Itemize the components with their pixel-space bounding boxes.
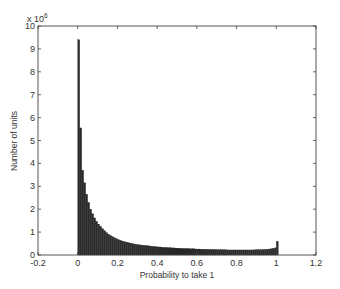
- histogram-bar: [262, 250, 264, 256]
- histogram-bar: [167, 248, 169, 255]
- histogram-bar: [129, 243, 131, 255]
- histogram-bar: [239, 250, 241, 255]
- y-tick-label: 8: [30, 67, 35, 77]
- x-axis-label: Probability to take 1: [140, 270, 215, 280]
- histogram-bar: [258, 250, 260, 255]
- histogram-bar: [147, 246, 149, 255]
- histogram-bar: [123, 242, 125, 255]
- histogram-bar: [78, 40, 80, 255]
- histogram-bar: [153, 247, 155, 255]
- histogram-bar: [207, 249, 209, 255]
- histogram-bar: [266, 249, 268, 255]
- histogram-bar: [256, 250, 258, 255]
- histogram-bar: [241, 250, 243, 255]
- histogram-bar: [100, 226, 102, 255]
- histogram-bar: [109, 236, 111, 255]
- y-tick-label: 4: [30, 158, 35, 168]
- histogram-bar: [137, 245, 139, 255]
- histogram-bar: [163, 247, 165, 255]
- x-tick-label: 0.2: [111, 258, 124, 268]
- histogram-bar: [209, 250, 211, 256]
- x-tick-label: 1: [274, 258, 279, 268]
- histogram-bar: [82, 170, 84, 255]
- histogram-bar: [143, 245, 145, 255]
- histogram-bar: [179, 248, 181, 255]
- histogram-bar: [205, 249, 207, 255]
- histogram-bar: [108, 234, 110, 255]
- histogram-bar: [169, 248, 171, 255]
- histogram-bar: [215, 250, 217, 256]
- histogram-bar: [203, 249, 205, 255]
- histogram-bar: [98, 224, 100, 255]
- histogram-bar: [113, 238, 115, 255]
- histogram-bar: [185, 249, 187, 255]
- histogram-bar: [173, 248, 175, 255]
- histogram-bar: [121, 241, 123, 255]
- histogram-bar: [177, 248, 179, 255]
- histogram-bar: [104, 231, 106, 255]
- histogram-bar: [250, 250, 252, 255]
- histogram-bar: [254, 250, 256, 255]
- histogram-bar: [211, 250, 213, 256]
- histogram-bar: [221, 250, 223, 255]
- histogram-bar: [127, 243, 129, 255]
- histogram-bar: [135, 244, 137, 255]
- histogram-bar: [189, 249, 191, 255]
- histogram-bar: [268, 249, 270, 255]
- histogram-bar: [92, 214, 94, 255]
- histogram-bar: [201, 249, 203, 255]
- histogram-bar: [96, 221, 98, 255]
- y-tick-label: 7: [30, 90, 35, 100]
- histogram-bar: [217, 250, 219, 255]
- histogram-bar: [94, 218, 96, 255]
- histogram-bar: [233, 250, 235, 255]
- histogram-bar: [187, 249, 189, 255]
- y-tick-label: 5: [30, 136, 35, 146]
- x-tick-label: 0.6: [191, 258, 204, 268]
- histogram-bar: [199, 249, 201, 255]
- histogram-bar: [252, 250, 254, 255]
- histogram-bar: [171, 248, 173, 255]
- histogram-bar: [165, 247, 167, 255]
- y-axis-label: Number of units: [9, 111, 19, 171]
- histogram-bar: [80, 128, 82, 255]
- histogram-bar: [145, 246, 147, 255]
- histogram-bar: [149, 246, 151, 255]
- histogram-bar: [270, 249, 272, 255]
- histogram-bar: [243, 250, 245, 255]
- y-multiplier-label: x 106: [27, 12, 48, 24]
- histogram-bar: [213, 250, 215, 256]
- histogram-bar: [229, 250, 231, 255]
- histogram-bar: [264, 250, 266, 256]
- histogram-bar: [225, 250, 227, 255]
- histogram-bar: [151, 246, 153, 255]
- histogram-bar: [159, 247, 161, 255]
- x-tick-label: 0: [75, 258, 80, 268]
- histogram-bar: [86, 194, 88, 255]
- histogram-bar: [219, 250, 221, 255]
- histogram-bar: [119, 240, 121, 255]
- histogram-bar: [272, 248, 274, 255]
- histogram-bar: [88, 202, 90, 255]
- histogram-bar: [223, 250, 225, 255]
- histogram-bar: [245, 250, 247, 255]
- histogram-bar: [133, 244, 135, 255]
- histogram-bar: [131, 244, 133, 255]
- y-tick-label: 9: [30, 44, 35, 54]
- y-tick-label: 1: [30, 227, 35, 237]
- x-tick-label: 0.8: [230, 258, 243, 268]
- histogram-bar: [139, 245, 141, 255]
- x-tick-label: 1.2: [310, 258, 323, 268]
- histogram-bar: [248, 250, 250, 255]
- histogram-bar: [183, 249, 185, 255]
- histogram-bar: [193, 249, 195, 255]
- histogram-bar: [181, 248, 183, 255]
- histogram-chart: -0.200.20.40.60.811.2 012345678910 x 106…: [0, 0, 340, 289]
- histogram-bar: [175, 248, 177, 255]
- histogram-bar: [102, 229, 104, 255]
- histogram-bar: [227, 250, 229, 255]
- histogram-bar: [141, 245, 143, 255]
- histogram-bar: [231, 250, 233, 255]
- histogram-bar: [111, 237, 113, 255]
- y-tick-label: 0: [30, 250, 35, 260]
